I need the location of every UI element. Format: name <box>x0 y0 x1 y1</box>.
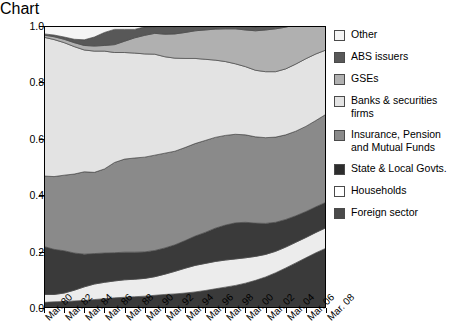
y-axis: 1.00.80.60.40.20.0 <box>0 18 44 318</box>
legend-label: State & Local Govts. <box>351 162 447 175</box>
plot-area <box>44 26 326 308</box>
legend-item: Other <box>334 28 451 41</box>
legend-swatch-icon <box>334 30 345 41</box>
legend-item: Households <box>334 184 451 197</box>
legend: OtherABS issuersGSEsBanks & securities f… <box>334 28 451 228</box>
legend-swatch-icon <box>334 130 345 141</box>
legend-item: State & Local Govts. <box>334 162 451 175</box>
y-axis-label: 0.0 <box>10 303 44 313</box>
legend-swatch-icon <box>334 52 345 63</box>
legend-item: ABS issuers <box>334 50 451 63</box>
y-axis-label: 0.2 <box>10 247 44 257</box>
chart-figure: 1.00.80.60.40.20.0 Mar. 80Mar. 82Mar. 84… <box>0 18 451 334</box>
legend-label: Insurance, Pension and Mutual Funds <box>351 128 451 153</box>
legend-label: Banks & securities firms <box>351 94 451 119</box>
legend-label: GSEs <box>351 72 378 85</box>
legend-swatch-icon <box>334 208 345 219</box>
legend-item: Banks & securities firms <box>334 94 451 119</box>
y-axis-label: 0.4 <box>10 190 44 200</box>
x-axis: Mar. 80Mar. 82Mar. 84Mar. 86Mar. 88Mar. … <box>44 308 334 334</box>
legend-swatch-icon <box>334 186 345 197</box>
legend-item: GSEs <box>334 72 451 85</box>
legend-label: Foreign sector <box>351 206 418 219</box>
legend-item: Insurance, Pension and Mutual Funds <box>334 128 451 153</box>
stacked-area-svg <box>44 26 326 308</box>
legend-swatch-icon <box>334 96 345 107</box>
legend-swatch-icon <box>334 164 345 175</box>
legend-label: Households <box>351 184 406 197</box>
y-axis-label: 1.0 <box>10 21 44 31</box>
y-axis-label: 0.6 <box>10 134 44 144</box>
legend-label: ABS issuers <box>351 50 408 63</box>
y-axis-label: 0.8 <box>10 77 44 87</box>
legend-label: Other <box>351 28 377 41</box>
legend-item: Foreign sector <box>334 206 451 219</box>
legend-swatch-icon <box>334 74 345 85</box>
